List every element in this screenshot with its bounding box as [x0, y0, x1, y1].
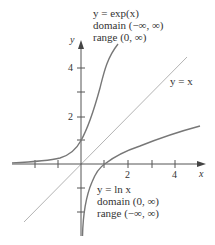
y-tick-label-4: 4	[68, 62, 73, 73]
exp-range-label: range (0, ∞)	[93, 31, 146, 43]
ln-domain-label: domain (0, ∞)	[97, 195, 159, 207]
x-axis-label: x	[199, 168, 203, 179]
identity-equation-label: y = x	[170, 75, 193, 87]
ln-curve	[83, 126, 201, 236]
y-tick-label-2: 2	[68, 111, 73, 122]
ln-range-label: range (−∞, ∞)	[97, 207, 159, 219]
x-tick-label-2: 2	[125, 169, 130, 180]
ln-equation-label: y = ln x	[97, 183, 131, 195]
exp-curve	[12, 44, 118, 163]
y-axis-label: y	[70, 34, 74, 45]
exp-equation-label: y = exp(x)	[93, 7, 139, 19]
x-axis-arrow-icon	[197, 161, 206, 167]
exp-domain-label: domain (−∞, ∞)	[93, 19, 163, 31]
y-axis-arrow-icon	[78, 40, 84, 49]
x-tick-label-4: 4	[172, 169, 177, 180]
